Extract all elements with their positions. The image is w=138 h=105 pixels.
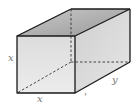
label-depth: y bbox=[111, 74, 118, 85]
label-front-width: x bbox=[37, 93, 43, 104]
rectangular-prism-diagram: x x y ' bbox=[0, 0, 138, 105]
label-front-height: x bbox=[8, 52, 14, 63]
label-extra-mark: ' bbox=[84, 91, 87, 102]
